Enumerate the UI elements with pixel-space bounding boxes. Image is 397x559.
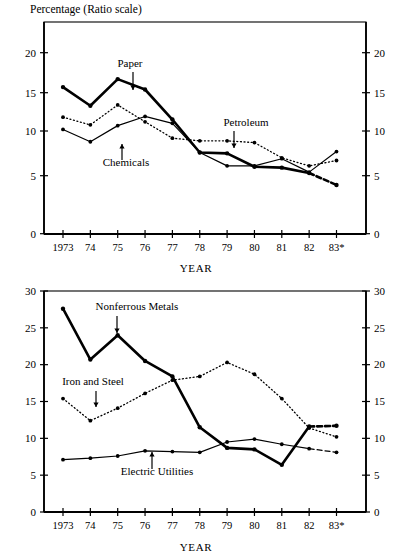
x-tick-label: 76 [140, 520, 151, 531]
data-point [225, 446, 229, 450]
data-point [88, 140, 92, 144]
annotation-nonferrous-metals-label: Nonferrous Metals [96, 300, 179, 312]
data-point [280, 397, 284, 401]
y-tick-label-left: 15 [25, 395, 37, 407]
data-point [88, 123, 92, 127]
data-point [61, 115, 65, 119]
x-axis-title-top: YEAR [180, 262, 212, 274]
annotation-iron-and-steel-label: Iron and Steel [62, 375, 124, 387]
data-point [171, 378, 175, 382]
y-tick-label-right: 15 [374, 395, 386, 407]
data-point [334, 183, 338, 187]
data-point [171, 450, 175, 454]
annotation-iron-and-steel-arrow [93, 391, 98, 407]
x-tick-label: 74 [85, 520, 96, 531]
y-tick-label-right: 0 [374, 228, 380, 240]
data-point [280, 156, 284, 160]
x-axis-title-bottom: YEAR [180, 541, 212, 553]
figure-two-line-charts: 0055101015152020197374757677787980818283… [0, 0, 397, 559]
data-point [253, 164, 257, 168]
y-tick-label-right: 10 [374, 125, 386, 137]
annotation-petroleum-arrow [231, 131, 236, 148]
x-tick-label: 76 [140, 242, 151, 253]
y-tick-label-right: 10 [374, 432, 386, 444]
data-point [307, 164, 311, 168]
data-point [171, 121, 175, 125]
y-tick-label-left: 5 [31, 170, 37, 182]
y-tick-label-left: 0 [31, 228, 37, 240]
data-point [61, 128, 65, 132]
arrow-head [114, 329, 119, 334]
annotation-paper-arrow [130, 72, 135, 90]
y-tick-label-right: 20 [374, 358, 386, 370]
data-point [225, 151, 229, 155]
data-point [88, 419, 92, 423]
data-point [307, 447, 311, 451]
annotation-electric-utilities-label: Electric Utilities [121, 465, 193, 477]
x-tick-label: 81 [277, 242, 288, 253]
data-point [280, 463, 284, 467]
data-point [335, 150, 339, 154]
annotation-chemicals-label: Chemicals [103, 156, 149, 168]
data-point [88, 357, 92, 361]
x-tick-label: 82 [304, 242, 315, 253]
x-tick-label: 79 [222, 520, 233, 531]
annotation-paper-label: Paper [117, 57, 142, 69]
data-point [198, 375, 202, 379]
data-point [335, 450, 339, 454]
x-tick-label: 80 [249, 520, 260, 531]
chart-canvas: 0055101015152020197374757677787980818283… [0, 0, 397, 559]
x-tick-label: 75 [112, 242, 123, 253]
arrow-head [93, 403, 98, 408]
x-tick-label: 77 [167, 520, 178, 531]
data-point [334, 424, 338, 428]
series-line [63, 439, 309, 460]
y-tick-label-left: 10 [25, 125, 37, 137]
y-tick-label-left: 0 [31, 506, 37, 518]
data-point [116, 77, 120, 81]
series-paper [61, 77, 339, 187]
data-point [143, 87, 147, 91]
arrow-head [231, 144, 236, 149]
series-electric-utilities [61, 437, 338, 461]
data-point [61, 397, 65, 401]
data-point [198, 425, 202, 429]
data-point [335, 159, 339, 163]
x-tick-label: 74 [85, 242, 96, 253]
x-tick-label: 82 [304, 520, 315, 531]
x-tick-label: 77 [167, 242, 178, 253]
plot-frame [44, 291, 366, 512]
data-point [171, 136, 175, 140]
y-tick-label-left: 30 [25, 285, 37, 297]
data-point [280, 165, 284, 169]
data-point [116, 333, 120, 337]
series-line-dashed-tail [309, 449, 336, 453]
y-tick-label-right: 0 [374, 506, 380, 518]
data-point [225, 139, 229, 143]
data-point [280, 442, 284, 446]
y-tick-label-right: 30 [374, 285, 386, 297]
data-point [253, 141, 257, 145]
data-point [61, 85, 65, 89]
series-line-dashed-tail [309, 173, 336, 185]
top-chart: 0055101015152020197374757677787980818283… [25, 22, 386, 253]
data-point [253, 372, 257, 376]
x-tick-label: 83* [329, 242, 345, 253]
x-tick-label: 83* [329, 520, 345, 531]
y-tick-label-right: 25 [374, 322, 386, 334]
x-tick-label: 78 [195, 242, 206, 253]
annotation-petroleum-label: Petroleum [223, 116, 269, 128]
data-point [253, 437, 257, 441]
data-point [225, 164, 229, 168]
data-point [170, 374, 174, 378]
data-point [61, 458, 65, 462]
data-point [198, 151, 202, 155]
x-tick-label: 1973 [53, 242, 74, 253]
x-tick-label: 1973 [53, 520, 74, 531]
data-point [198, 450, 202, 454]
y-tick-label-left: 5 [31, 469, 37, 481]
data-point [88, 456, 92, 460]
data-point [335, 435, 339, 439]
y-tick-label-left: 20 [25, 358, 37, 370]
data-point [143, 449, 147, 453]
